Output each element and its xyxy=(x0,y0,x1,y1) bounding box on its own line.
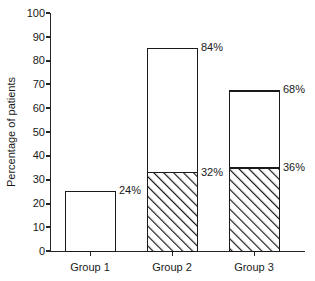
y-tick-label-70: 70 xyxy=(33,78,45,90)
y-axis-title: Percentage of patients xyxy=(5,76,17,187)
value-label-group-1-total: 24% xyxy=(119,184,141,196)
y-tick-label-30: 30 xyxy=(33,173,45,185)
value-label-group-2-hatched: 32% xyxy=(201,166,223,178)
y-tick-label-80: 80 xyxy=(33,54,45,66)
value-label-group-2-total: 84% xyxy=(201,41,223,53)
bar-group-3-hatched[interactable] xyxy=(230,168,280,252)
y-tick-label-90: 90 xyxy=(33,31,45,43)
bar-group-2[interactable] xyxy=(148,49,198,252)
x-axis-label-group-3: Group 3 xyxy=(234,261,274,273)
bar-group-1-total[interactable] xyxy=(66,192,116,252)
bar-group-2-hatched[interactable] xyxy=(148,173,198,252)
bar-group-1[interactable] xyxy=(66,192,116,252)
y-tick-label-40: 40 xyxy=(33,149,45,161)
y-tick-label-60: 60 xyxy=(33,102,45,114)
y-tick-label-0: 0 xyxy=(39,245,45,257)
x-axis-label-group-2: Group 2 xyxy=(152,261,192,273)
bar-group-3[interactable] xyxy=(230,91,280,252)
y-tick-label-100: 100 xyxy=(27,7,45,19)
x-axis-label-group-1: Group 1 xyxy=(70,261,110,273)
chart-canvas: Percentage of patients 100 90 80 70 60 5… xyxy=(0,0,315,281)
y-axis-ticks xyxy=(46,13,50,251)
y-tick-label-50: 50 xyxy=(33,126,45,138)
y-tick-label-10: 10 xyxy=(33,221,45,233)
y-tick-label-20: 20 xyxy=(33,197,45,209)
value-label-group-3-total: 68% xyxy=(283,83,305,95)
x-axis-ticks xyxy=(91,252,255,256)
bar-chart: Percentage of patients 100 90 80 70 60 5… xyxy=(0,0,315,281)
value-label-group-3-hatched: 36% xyxy=(283,161,305,173)
